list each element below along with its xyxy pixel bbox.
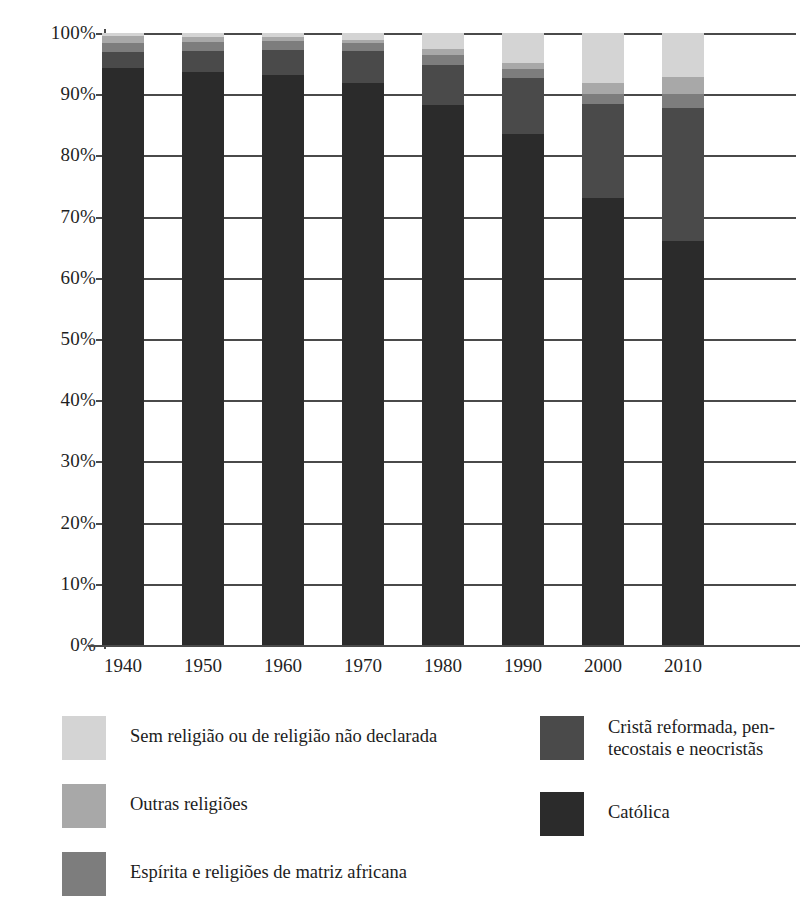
bar-segment	[582, 104, 624, 198]
x-tick-label-1970: 1970	[323, 655, 403, 677]
x-tick-label-2000: 2000	[563, 655, 643, 677]
chart-legend: Sem religião ou de religião não declarad…	[0, 700, 812, 903]
bar-segment	[342, 33, 384, 40]
x-tick-label-2010: 2010	[643, 655, 723, 677]
bar-segment	[662, 94, 704, 108]
bar-1980[interactable]	[422, 33, 464, 645]
bar-2010[interactable]	[662, 33, 704, 645]
bar-segment	[502, 134, 544, 645]
bar-segment	[662, 77, 704, 94]
x-tick-label-1940: 1940	[83, 655, 163, 677]
bar-segment	[262, 41, 304, 50]
bar-segment	[102, 68, 144, 645]
bar-segment	[582, 94, 624, 104]
legend-item[interactable]: Cristã reformada, pen-tecostais e neocri…	[540, 716, 775, 761]
bar-segment	[502, 33, 544, 63]
legend-item[interactable]: Católica	[540, 792, 670, 836]
legend-label: Espírita e religiões de matriz africana	[130, 852, 407, 884]
x-axis-line	[88, 645, 800, 647]
bar-segment	[422, 105, 464, 645]
bar-1950[interactable]	[182, 33, 224, 645]
legend-item[interactable]: Espírita e religiões de matriz africana	[62, 852, 407, 896]
legend-swatch	[62, 852, 106, 896]
bar-1960[interactable]	[262, 33, 304, 645]
bar-segment	[502, 69, 544, 78]
bar-segment	[182, 72, 224, 645]
bar-segment	[342, 83, 384, 645]
x-tick-label-1960: 1960	[243, 655, 323, 677]
bar-segment	[582, 198, 624, 645]
bar-segment	[182, 42, 224, 52]
bar-1970[interactable]	[342, 33, 384, 645]
bar-segment	[102, 36, 144, 43]
bar-segment	[662, 241, 704, 645]
bar-segment	[262, 75, 304, 645]
legend-label: Cristã reformada, pen-tecostais e neocri…	[608, 716, 775, 761]
x-tick-label-1990: 1990	[483, 655, 563, 677]
bar-segment	[342, 51, 384, 83]
legend-label: Sem religião ou de religião não declarad…	[130, 716, 437, 748]
bar-segment	[662, 108, 704, 241]
bar-segment	[422, 55, 464, 65]
legend-swatch	[540, 716, 584, 760]
bar-segment	[262, 50, 304, 74]
bar-segment	[422, 33, 464, 49]
stacked-bars-layer	[0, 0, 812, 645]
bar-segment	[502, 78, 544, 134]
bar-segment	[102, 52, 144, 68]
bar-segment	[182, 51, 224, 72]
legend-item[interactable]: Sem religião ou de religião não declarad…	[62, 716, 437, 760]
legend-swatch	[540, 792, 584, 836]
bar-segment	[102, 43, 144, 52]
bar-segment	[342, 43, 384, 51]
legend-swatch	[62, 784, 106, 828]
legend-label-line: Sem religião ou de religião não declarad…	[130, 726, 437, 746]
bar-1940[interactable]	[102, 33, 144, 645]
legend-label-line: tecostais e neocristãs	[608, 739, 775, 761]
chart-plot-area: 0%10%20%30%40%50%60%70%80%90%100% 194019…	[0, 0, 812, 690]
legend-label-line: Católica	[608, 802, 670, 822]
bar-1990[interactable]	[502, 33, 544, 645]
legend-label: Outras religiões	[130, 784, 248, 816]
bar-segment	[422, 65, 464, 105]
legend-label: Católica	[608, 792, 670, 824]
bar-2000[interactable]	[582, 33, 624, 645]
legend-item[interactable]: Outras religiões	[62, 784, 248, 828]
x-tick-label-1980: 1980	[403, 655, 483, 677]
x-tick-label-1950: 1950	[163, 655, 243, 677]
bar-segment	[662, 33, 704, 77]
legend-label-line: Outras religiões	[130, 794, 248, 814]
legend-label-line: Espírita e religiões de matriz africana	[130, 862, 407, 882]
bar-segment	[582, 33, 624, 83]
legend-label-line: Cristã reformada, pen-	[608, 717, 775, 737]
legend-swatch	[62, 716, 106, 760]
bar-segment	[582, 83, 624, 94]
